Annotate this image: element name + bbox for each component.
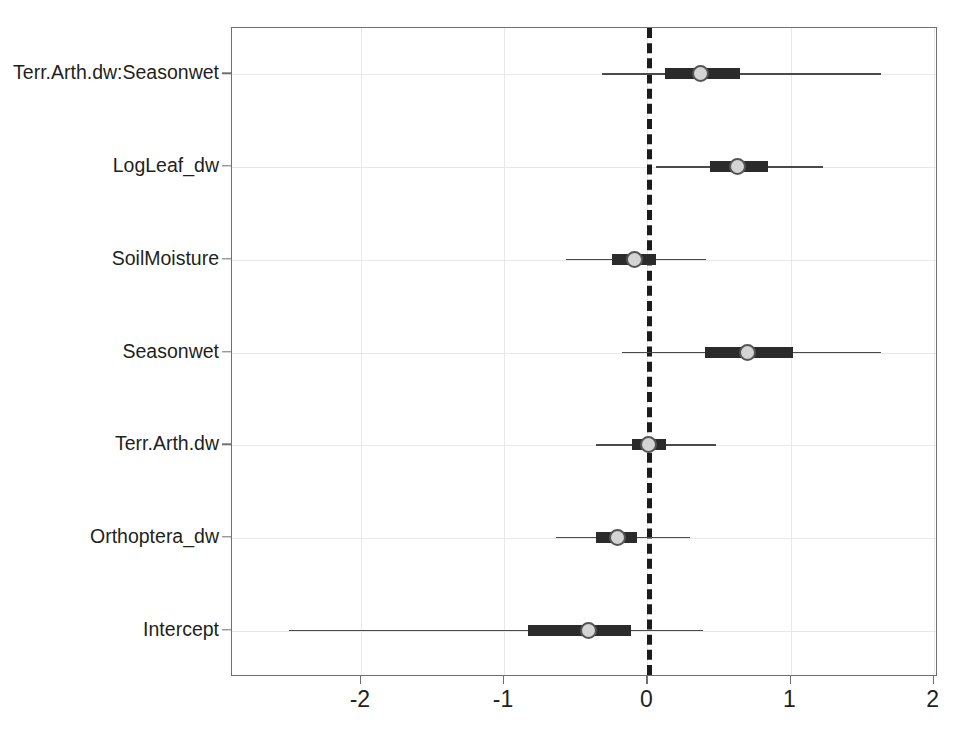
y-axis-tick-Intercept: [222, 629, 231, 630]
y-axis-label-Terr.Arth.dw: Terr.Arth.dw: [115, 434, 219, 454]
coefficient-row-Intercept: [232, 618, 936, 644]
x-axis-label-1: 1: [783, 688, 796, 711]
y-axis-label-SoilMoisture: SoilMoisture: [112, 249, 219, 269]
x-axis-label--1: -1: [493, 688, 513, 711]
y-axis-tick-LogLeaf_dw: [222, 165, 231, 166]
x-axis-label-2: 2: [926, 688, 939, 711]
x-axis-label-0: 0: [640, 688, 653, 711]
point-estimate-Seasonwet: [739, 344, 756, 361]
y-axis-label-Terr.Arth.dw:Seasonwet: Terr.Arth.dw:Seasonwet: [13, 64, 219, 84]
y-axis-label-Seasonwet: Seasonwet: [123, 342, 219, 362]
coefficient-plot-figure: Terr.Arth.dw:SeasonwetLogLeaf_dwSoilMois…: [0, 0, 964, 731]
outer-interval-Terr.Arth.dw:Seasonwet: [602, 73, 881, 75]
point-estimate-Intercept: [580, 622, 597, 639]
coefficient-row-SoilMoisture: [232, 247, 936, 273]
x-axis-label--2: -2: [350, 688, 370, 711]
x-axis-tick--1: [503, 676, 504, 684]
x-axis-tick-1: [790, 676, 791, 684]
y-axis-label-LogLeaf_dw: LogLeaf_dw: [113, 156, 219, 176]
coefficient-row-Orthoptera_dw: [232, 525, 936, 551]
x-axis-tick-0: [646, 676, 647, 684]
point-estimate-SoilMoisture: [626, 251, 643, 268]
point-estimate-Terr.Arth.dw:Seasonwet: [692, 65, 709, 82]
coefficient-row-Terr.Arth.dw:Seasonwet: [232, 61, 936, 87]
y-axis-label-Orthoptera_dw: Orthoptera_dw: [90, 527, 219, 547]
y-axis-tick-Seasonwet: [222, 351, 231, 352]
point-estimate-Terr.Arth.dw: [640, 436, 657, 453]
coefficient-row-Terr.Arth.dw: [232, 432, 936, 458]
point-estimate-LogLeaf_dw: [729, 158, 746, 175]
coefficient-row-LogLeaf_dw: [232, 154, 936, 180]
point-estimate-Orthoptera_dw: [609, 529, 626, 546]
y-axis-tick-Orthoptera_dw: [222, 536, 231, 537]
outer-interval-Intercept: [289, 630, 703, 632]
y-axis-tick-Terr.Arth.dw:Seasonwet: [222, 73, 231, 74]
x-axis-tick-2: [933, 676, 934, 684]
plot-panel: [231, 27, 937, 676]
coefficient-row-Seasonwet: [232, 340, 936, 366]
y-axis-tick-Terr.Arth.dw: [222, 443, 231, 444]
y-axis-tick-SoilMoisture: [222, 258, 231, 259]
x-axis-tick--2: [360, 676, 361, 684]
y-axis-label-Intercept: Intercept: [143, 620, 219, 640]
